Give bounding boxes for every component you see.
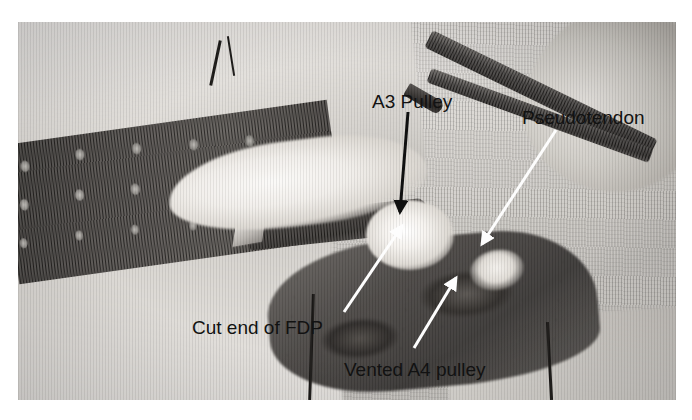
figure-container: A3 Pulley Pseudotendon Cut end of FDP Ve… (0, 0, 692, 420)
annotation-label-vented-a4-pulley: Vented A4 pulley (344, 360, 486, 379)
annotation-label-pseudotendon: Pseudotendon (522, 108, 645, 127)
annotation-label-a3-pulley: A3 Pulley (372, 92, 452, 111)
annotation-label-cut-end-of-fdp: Cut end of FDP (192, 318, 323, 337)
cut-tendon-stump (366, 200, 454, 270)
surgical-photograph (18, 22, 676, 400)
